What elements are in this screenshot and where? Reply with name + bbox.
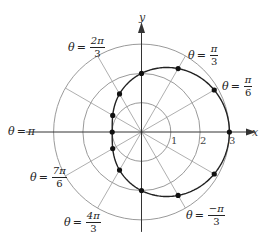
- fraction: −π3: [208, 204, 225, 227]
- angle-label-4pi-over-3: θ=4π3: [64, 211, 101, 234]
- curve-point: [117, 167, 122, 172]
- curve-point: [139, 188, 144, 193]
- x-axis-label: x: [252, 126, 258, 139]
- denominator: 3: [213, 216, 219, 227]
- equals-sign: =: [197, 49, 206, 62]
- fraction: π3: [210, 44, 219, 67]
- angle-label-7pi-over-6: θ=7π6: [30, 166, 67, 189]
- angle-label-neg-pi-over-3: θ=−π3: [186, 204, 225, 227]
- fraction: 7π6: [52, 166, 67, 189]
- axes: [26, 22, 256, 232]
- angle-label-pi-over-6: θ=π6: [222, 75, 252, 98]
- denominator: 6: [245, 87, 251, 98]
- numerator: 7π: [52, 166, 67, 178]
- angle-label-pi: θ=π: [8, 126, 35, 137]
- equals-sign: =: [231, 80, 240, 93]
- polar-graph: x y 1 2 3 θ=2π3 θ=π3 θ=π6 θ=π θ=7π6 θ=4π…: [0, 0, 272, 243]
- tick-label-1: 1: [171, 135, 177, 146]
- angle-value: π: [28, 125, 35, 138]
- theta-symbol: θ: [68, 41, 75, 54]
- curve-point: [110, 113, 115, 118]
- denominator: 3: [94, 48, 100, 59]
- curve-point: [212, 87, 217, 92]
- theta-symbol: θ: [30, 171, 37, 184]
- curve-point: [176, 66, 181, 71]
- curve-point: [110, 146, 115, 151]
- numerator: π: [244, 75, 253, 87]
- y-axis-label: y: [139, 11, 145, 24]
- denominator: 3: [90, 223, 96, 234]
- theta-symbol: θ: [64, 216, 71, 229]
- denominator: 3: [211, 56, 217, 67]
- curve-point: [139, 71, 144, 76]
- equals-sign: =: [195, 209, 204, 222]
- numerator: π: [210, 44, 219, 56]
- theta-symbol: θ: [222, 80, 229, 93]
- tick-label-3: 3: [229, 135, 235, 146]
- curve-point: [176, 193, 181, 198]
- curve-point: [110, 129, 115, 134]
- theta-symbol: θ: [8, 125, 15, 138]
- angle-label-pi-over-3: θ=π3: [188, 44, 218, 67]
- curve-point: [117, 91, 122, 96]
- theta-symbol: θ: [188, 49, 195, 62]
- angle-label-2pi-over-3: θ=2π3: [68, 36, 105, 59]
- numerator: −π: [208, 204, 225, 216]
- curve-point: [212, 171, 217, 176]
- equals-sign: =: [17, 125, 26, 138]
- numerator: 4π: [86, 211, 101, 223]
- equals-sign: =: [73, 216, 82, 229]
- theta-symbol: θ: [186, 209, 193, 222]
- equals-sign: =: [77, 41, 86, 54]
- curve-point: [227, 129, 232, 134]
- fraction: π6: [244, 75, 253, 98]
- numerator: 2π: [90, 36, 105, 48]
- denominator: 6: [56, 178, 62, 189]
- polar-plot-canvas: [0, 0, 272, 243]
- fraction: 2π3: [90, 36, 105, 59]
- equals-sign: =: [39, 171, 48, 184]
- tick-label-2: 2: [200, 135, 206, 146]
- fraction: 4π3: [86, 211, 101, 234]
